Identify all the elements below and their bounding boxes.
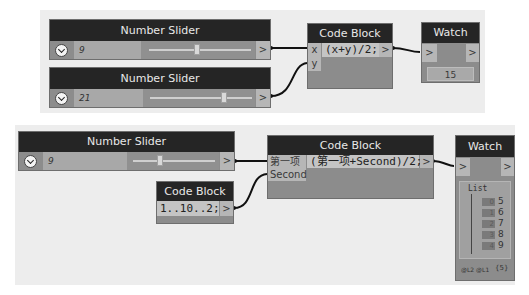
input-port-y[interactable]: y bbox=[308, 57, 321, 71]
watch-node[interactable]: Watch > > 15 bbox=[421, 22, 480, 83]
slider-track[interactable] bbox=[149, 49, 251, 51]
slider-track[interactable] bbox=[133, 160, 215, 162]
list-index: 1 bbox=[482, 209, 495, 217]
list-item: 49 bbox=[482, 240, 504, 250]
node-title: Code Block bbox=[268, 136, 433, 155]
input-port-first[interactable]: 第一项 bbox=[268, 155, 306, 168]
list-value: 5 bbox=[498, 196, 504, 206]
list-levels: @L2 @L1 bbox=[461, 266, 489, 273]
list-tree-line bbox=[471, 194, 472, 254]
expand-chevron-icon[interactable] bbox=[55, 92, 68, 105]
slider-thumb[interactable] bbox=[157, 155, 163, 166]
list-value: 8 bbox=[498, 229, 504, 239]
list-count: {5} bbox=[495, 264, 508, 272]
number-slider-node-1[interactable]: Number Slider 9 > bbox=[49, 19, 271, 60]
output-port[interactable]: > bbox=[220, 152, 234, 170]
node-title: Watch bbox=[456, 136, 514, 157]
list-item: 27 bbox=[482, 218, 504, 228]
number-slider-node-3[interactable]: Number Slider 9 > bbox=[18, 131, 235, 171]
output-port[interactable]: > bbox=[420, 155, 433, 168]
slider-value[interactable]: 9 bbox=[43, 152, 127, 170]
slider-track[interactable] bbox=[150, 97, 252, 99]
output-port[interactable]: > bbox=[501, 158, 514, 176]
list-index: 0 bbox=[482, 198, 495, 206]
input-port-second[interactable]: Second bbox=[268, 168, 306, 181]
list-item: 05 bbox=[482, 196, 504, 206]
input-port[interactable]: > bbox=[456, 158, 470, 176]
node-title: Number Slider bbox=[19, 132, 234, 152]
slider-value[interactable]: 21 bbox=[74, 89, 143, 107]
code-editor[interactable]: (x+y)/2; bbox=[322, 43, 379, 57]
watch-value: 15 bbox=[427, 67, 474, 81]
output-port[interactable]: > bbox=[466, 44, 479, 62]
input-port-x[interactable]: x bbox=[308, 43, 321, 57]
slider-thumb[interactable] bbox=[194, 44, 200, 55]
code-editor[interactable]: (第一项+Second)/2; bbox=[307, 155, 419, 168]
output-port[interactable]: > bbox=[220, 201, 233, 216]
input-port[interactable]: > bbox=[422, 44, 437, 62]
expand-chevron-icon[interactable] bbox=[55, 44, 68, 57]
slider-value[interactable]: 9 bbox=[74, 41, 141, 59]
list-item: 16 bbox=[482, 207, 504, 217]
list-label: List bbox=[468, 184, 487, 193]
code-block-node[interactable]: Code Block x y (x+y)/2; > bbox=[307, 23, 393, 89]
output-port[interactable]: > bbox=[256, 41, 270, 59]
code-editor[interactable]: 1..10..2; bbox=[157, 201, 219, 216]
output-port[interactable]: > bbox=[379, 43, 392, 57]
output-port[interactable]: > bbox=[256, 89, 270, 107]
node-title: Watch bbox=[422, 23, 479, 43]
node-title: Code Block bbox=[308, 24, 392, 43]
list-value: 9 bbox=[498, 240, 504, 250]
list-item: 38 bbox=[482, 229, 504, 239]
watch-node-2[interactable]: Watch > > List 05 16 27 38 49 @L2 @L1 {5… bbox=[455, 135, 515, 281]
list-index: 3 bbox=[482, 231, 495, 239]
node-title: Code Block bbox=[157, 182, 233, 201]
slider-thumb[interactable] bbox=[221, 92, 227, 103]
node-title: Number Slider bbox=[50, 20, 270, 41]
list-index: 4 bbox=[482, 242, 495, 250]
code-block-node-2[interactable]: Code Block 第一项 Second (第一项+Second)/2; > bbox=[267, 135, 434, 199]
node-title: Number Slider bbox=[50, 68, 270, 89]
number-slider-node-2[interactable]: Number Slider 21 > bbox=[49, 67, 271, 108]
list-value: 6 bbox=[498, 207, 504, 217]
list-value: 7 bbox=[498, 218, 504, 228]
code-block-range-node[interactable]: Code Block 1..10..2; > bbox=[156, 181, 234, 224]
expand-chevron-icon[interactable] bbox=[24, 155, 37, 168]
list-index: 2 bbox=[482, 220, 495, 228]
